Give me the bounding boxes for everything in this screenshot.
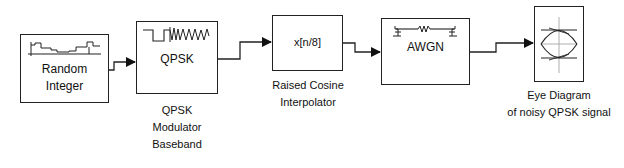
block-raised-cosine-interpolator[interactable]: x[n/8] <box>272 15 343 71</box>
caption-eye-diagram-line1: Eye Diagram <box>499 88 619 102</box>
caption-raised-cosine-line2: Interpolator <box>262 95 354 109</box>
wire-raisedcosine-to-awgn <box>343 43 380 52</box>
block-random-integer-line1: Random <box>21 62 108 76</box>
wire-qpsk-to-raisedcosine <box>218 42 271 59</box>
block-qpsk-inner-label: QPSK <box>137 52 217 66</box>
random-integer-icon <box>21 37 108 59</box>
caption-eye-diagram-line2: of noisy QPSK signal <box>499 105 619 119</box>
block-random-integer-line2: Integer <box>21 79 108 93</box>
block-awgn[interactable]: AWGN <box>381 18 470 85</box>
wire-awgn-to-eye <box>470 43 533 52</box>
caption-qpsk-line1: QPSK <box>136 103 218 117</box>
block-qpsk-modulator[interactable]: QPSK <box>136 21 218 94</box>
qpsk-waveform-icon <box>137 24 217 46</box>
block-awgn-inner-label: AWGN <box>382 40 469 54</box>
caption-raised-cosine-line1: Raised Cosine <box>262 78 354 92</box>
caption-qpsk-line2: Modulator <box>136 120 218 134</box>
eye-diagram-icon <box>535 7 583 81</box>
block-raised-cosine-inner-label: x[n/8] <box>273 36 342 48</box>
caption-qpsk-line3: Baseband <box>136 137 218 151</box>
block-eye-diagram-scope[interactable] <box>534 6 584 82</box>
block-random-integer[interactable]: Random Integer <box>20 34 109 103</box>
wire-random-to-qpsk <box>109 62 135 70</box>
